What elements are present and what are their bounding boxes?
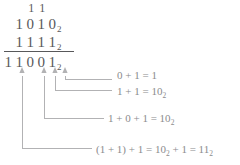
carry-row: 11 [15,2,59,14]
carry-digit-2: 1 [37,2,48,14]
annotation-col-2-subscript: 2 [162,91,166,100]
addend-1-digit-1: 0 [25,17,36,32]
annotation-col-4-text: (1 + 1) + 1 = 10 [96,143,166,155]
annotation-col-1: 0 + 1 = 1 [117,70,157,85]
sum-digit-3: 0 [36,55,47,70]
sum-digit-1: 1 [14,55,25,70]
arrow-up-icon-col-1 [62,67,67,73]
leader-line-col-1 [65,76,112,79]
sum-digit-2: 0 [25,55,36,70]
sum-digit-0: 1 [3,55,14,70]
binary-addition-figure: 11 10102 11112 110012 0 + 1 = 1 1 + 1 = … [0,0,240,165]
annotation-col-1-text: 0 + 1 = 1 [117,69,157,81]
addend-1-digit-0: 1 [14,17,25,32]
addend-2-digit-1: 1 [25,35,36,50]
carry-digit-1: 1 [26,2,37,14]
addend-1-base-subscript: 2 [57,24,62,34]
annotation-col-3-text: 1 + 0 + 1 = 10 [108,112,171,124]
sum-rule-line [4,51,74,52]
addend-2-digit-0: 1 [14,35,25,50]
addend-2-row: 11112 [14,35,62,55]
annotation-col-3-subscript: 2 [171,118,175,127]
annotation-col-3: 1 + 0 + 1 = 102 [108,113,174,128]
annotation-col-4-subscript-tail: 2 [209,149,213,158]
leader-line-col-4 [22,76,92,148]
annotation-col-4-text-tail: + 1 = 11 [170,143,210,155]
annotation-col-2: 1 + 1 = 102 [117,86,166,101]
addend-1-digit-2: 1 [36,17,47,32]
addend-2-digit-2: 1 [36,35,47,50]
sum-row: 110012 [3,55,62,75]
sum-base-subscript: 2 [57,62,62,72]
annotation-col-4: (1 + 1) + 1 = 102 + 1 = 112 [96,144,213,159]
annotation-col-2-text: 1 + 1 = 10 [117,85,162,97]
leader-line-col-3 [44,76,104,118]
leader-line-col-2 [55,76,112,90]
